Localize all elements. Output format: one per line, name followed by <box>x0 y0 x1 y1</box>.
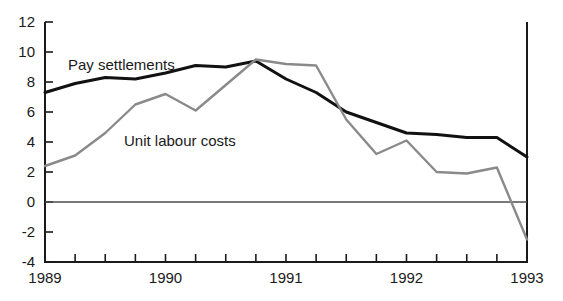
x-tick-label: 1993 <box>510 269 543 286</box>
series-annotations-group: Pay settlementsUnit labour costs <box>68 56 236 149</box>
x-tick-labels-group: 19891990199119921993 <box>28 254 543 286</box>
y-tick-label: -2 <box>22 223 35 240</box>
y-tick-label: 4 <box>27 133 35 150</box>
y-tick-label: -4 <box>22 253 35 270</box>
series-line-unit-labour-costs <box>45 60 527 240</box>
x-tick-label: 1991 <box>269 269 302 286</box>
x-tick-label: 1992 <box>390 269 423 286</box>
line-chart: 121086420-2-4 19891990199119921993 Pay s… <box>0 0 563 301</box>
y-tick-label: 12 <box>18 13 35 30</box>
series-line-pay-settlements <box>45 61 527 157</box>
y-tick-label: 2 <box>27 163 35 180</box>
x-tick-label: 1990 <box>149 269 182 286</box>
y-tick-label: 8 <box>27 73 35 90</box>
chart-container: 121086420-2-4 19891990199119921993 Pay s… <box>0 0 563 301</box>
series-annotation-label: Pay settlements <box>68 56 175 73</box>
series-group <box>45 60 527 240</box>
y-tick-label: 0 <box>27 193 35 210</box>
y-tick-labels-group: 121086420-2-4 <box>18 13 53 270</box>
y-tick-label: 6 <box>27 103 35 120</box>
series-annotation-label: Unit labour costs <box>124 132 236 149</box>
x-tick-label: 1989 <box>28 269 61 286</box>
y-tick-label: 10 <box>18 43 35 60</box>
